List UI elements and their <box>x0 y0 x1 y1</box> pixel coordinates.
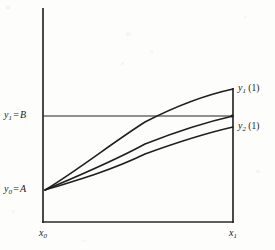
label-x1: x1 <box>229 228 237 240</box>
label-y1-equals-B: y1=B <box>4 110 26 122</box>
figure-container: y1=B y0=A y1(1) y2(1) x0 x1 <box>0 0 275 250</box>
label-x1-sub: 1 <box>234 232 238 240</box>
label-y0-equals-A: y0=A <box>4 184 26 196</box>
label-x0: x0 <box>39 228 47 240</box>
label-curve-y2-1-paren: (1) <box>246 121 259 131</box>
label-x0-sub: 0 <box>44 232 48 240</box>
label-y0-equals-A-value: A <box>20 183 26 194</box>
label-y1-equals-B-eq: = <box>12 109 20 120</box>
label-y1-equals-B-value: B <box>20 109 26 120</box>
figure-plot <box>0 0 275 250</box>
label-y0-equals-A-eq: = <box>12 183 20 194</box>
label-curve-y2-1: y2(1) <box>238 121 260 133</box>
curve-b-intersection-marker <box>231 115 234 118</box>
label-curve-y1-1-paren: (1) <box>246 83 259 93</box>
label-curve-y1-1: y1(1) <box>238 83 260 95</box>
